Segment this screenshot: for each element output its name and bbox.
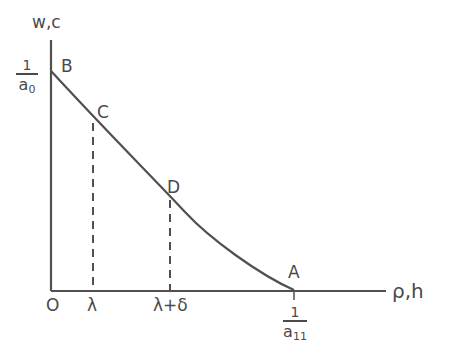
x-intercept-fraction: 1 a11: [283, 305, 307, 342]
point-d-label: D: [167, 179, 180, 196]
y-axis-label: w,c: [32, 14, 61, 31]
y-intercept-fraction: 1 a0: [16, 58, 38, 95]
point-c-label: C: [97, 104, 109, 121]
denominator-base: a: [19, 75, 29, 94]
x-axis-label: ρ,h: [392, 281, 424, 301]
tick-label-lambda-plus-delta: λ+δ: [153, 297, 188, 314]
y-intercept-numerator: 1: [16, 58, 38, 72]
point-a-label: A: [288, 264, 300, 281]
denominator-subscript: 0: [28, 83, 35, 96]
origin-label: O: [46, 297, 59, 314]
denominator-subscript: 11: [293, 330, 307, 343]
x-intercept-numerator: 1: [283, 305, 307, 319]
y-intercept-denominator: a0: [16, 77, 38, 95]
point-b-label: B: [61, 58, 73, 75]
x-intercept-denominator: a11: [283, 324, 307, 342]
diagram: w,c ρ,h O B C D A λ λ+δ 1 a0 1 a11: [0, 0, 450, 363]
tick-label-lambda: λ: [87, 297, 97, 314]
diagram-canvas: [0, 0, 450, 363]
denominator-base: a: [283, 322, 293, 341]
